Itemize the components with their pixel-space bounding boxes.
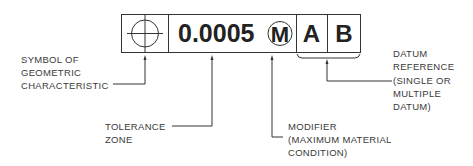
svg-text:(MAXIMUM MATERIAL: (MAXIMUM MATERIAL (288, 134, 392, 145)
svg-text:MULTIPLE: MULTIPLE (393, 88, 441, 99)
svg-text:(SINGLE OR: (SINGLE OR (393, 75, 451, 86)
feature-control-frame-diagram: 0.0005 M A B SYMBOL OF GEOMETRIC CHARACT… (0, 0, 473, 166)
svg-text:SYMBOL OF: SYMBOL OF (21, 54, 79, 65)
callout-symbol: SYMBOL OF GEOMETRIC CHARACTERISTIC (21, 54, 109, 91)
svg-text:DATUM: DATUM (393, 48, 428, 59)
svg-text:TOLERANCE: TOLERANCE (105, 121, 166, 132)
position-icon (127, 15, 163, 52)
leader-tolerance (172, 55, 214, 126)
callout-datum: DATUM REFERENCE (SINGLE OR MULTIPLE DATU… (393, 48, 454, 112)
leader-datum (326, 59, 393, 81)
modifier-letter: M (271, 22, 289, 47)
mmc-modifier-icon: M (268, 22, 292, 48)
svg-text:MODIFIER: MODIFIER (288, 121, 337, 132)
tolerance-value: 0.0005 (178, 19, 255, 47)
datum-bracket (297, 54, 360, 58)
leader-symbol (113, 55, 147, 84)
callout-modifier: MODIFIER (MAXIMUM MATERIAL CONDITION) (288, 121, 392, 158)
svg-text:ZONE: ZONE (105, 134, 133, 145)
svg-text:CHARACTERISTIC: CHARACTERISTIC (21, 80, 109, 91)
svg-text:CONDITION): CONDITION) (288, 147, 347, 158)
datum-b: B (335, 20, 352, 47)
callout-tolerance: TOLERANCE ZONE (105, 121, 166, 145)
leader-modifier (271, 55, 284, 137)
svg-text:DATUM): DATUM) (393, 101, 431, 112)
svg-text:GEOMETRIC: GEOMETRIC (21, 67, 81, 78)
datum-a: A (303, 20, 320, 47)
svg-text:REFERENCE: REFERENCE (393, 61, 454, 72)
